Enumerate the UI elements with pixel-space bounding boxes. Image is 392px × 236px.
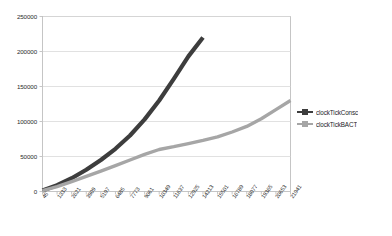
plot-area (43, 17, 291, 192)
legend-marker-icon (297, 109, 313, 116)
y-tick-label: 0 (1, 188, 37, 195)
legend-label: clockTickBACT (316, 121, 357, 128)
y-tick-label: 100000 (1, 118, 37, 125)
y-tick-marks (40, 17, 43, 192)
y-tick-label: 200000 (1, 48, 37, 55)
legend-item-clocktickconsc[interactable]: clockTickConsc (297, 106, 392, 118)
legend-label: clockTickConsc (316, 109, 358, 116)
legend-marker-icon (297, 121, 313, 128)
line-chart: 050000100000150000200000250000 451333262… (0, 0, 392, 236)
y-tick-label: 50000 (1, 153, 37, 160)
y-tick-label: 250000 (1, 13, 37, 20)
chart-legend: clockTickConsc clockTickBACT (297, 106, 392, 130)
y-tick-label: 150000 (1, 83, 37, 90)
legend-item-clocktickbact[interactable]: clockTickBACT (297, 118, 392, 130)
